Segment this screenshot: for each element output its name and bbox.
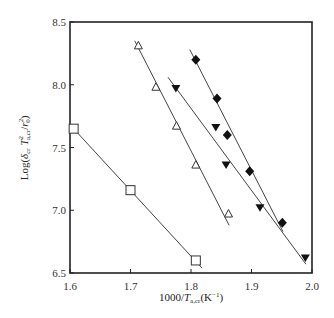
chart: 1.61.71.81.92.0 6.57.07.58.08.5 1000/Ta,… <box>0 0 334 318</box>
fit-line <box>168 77 306 264</box>
x-tick-label: 1.6 <box>63 280 77 292</box>
triangle-up-marker <box>152 83 160 91</box>
y-tick-label: 8.0 <box>52 79 66 91</box>
triangle-up-marker <box>172 122 180 129</box>
data-markers <box>69 41 310 265</box>
triangle-down-marker <box>301 254 310 262</box>
square-marker <box>69 124 78 133</box>
diamond-marker <box>245 166 254 176</box>
triangle-up-marker <box>192 161 200 169</box>
x-tick-label: 1.7 <box>124 280 138 292</box>
square-marker <box>191 256 200 265</box>
triangle-up-marker <box>225 210 233 218</box>
x-tick-label: 1.9 <box>245 280 259 292</box>
triangle-down-marker <box>222 162 231 170</box>
y-tick-label: 6.5 <box>52 267 66 279</box>
triangle-down-marker <box>255 204 264 212</box>
square-marker <box>126 186 135 195</box>
fit-line <box>190 50 283 232</box>
fit-lines <box>74 41 306 268</box>
fit-line <box>74 129 202 268</box>
y-tick-label: 8.5 <box>52 16 66 28</box>
plot-border <box>70 22 312 273</box>
y-axis-label: Log(δcr T2a,cr/r20) <box>17 115 32 180</box>
fit-line <box>135 41 229 225</box>
x-tick-label: 2.0 <box>305 280 319 292</box>
diamond-marker <box>278 218 287 228</box>
plot-frame <box>70 22 312 273</box>
triangle-down-marker <box>211 124 220 132</box>
x-axis-label: 1000/Ta,cr(K−1) <box>159 291 224 305</box>
diamond-marker <box>223 130 232 140</box>
diamond-marker <box>213 94 222 104</box>
y-tick-label: 7.0 <box>52 204 66 216</box>
y-tick-label: 7.5 <box>52 142 66 154</box>
